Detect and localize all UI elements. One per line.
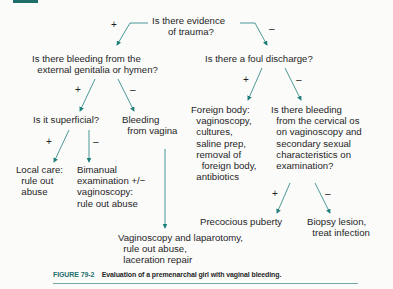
node-local-care: Local care: rule out abuse <box>16 164 63 198</box>
minus-sign: – <box>325 189 331 199</box>
node-bimanual-examination: Bimanual examination +/− vaginoscopy: ru… <box>77 164 145 209</box>
node-evidence-of-trauma: Is there evidence of trauma? <box>152 15 225 37</box>
figure-caption: FIGURE 79-2Evaluation of a premenarchal … <box>53 270 281 279</box>
node-bleeding-external-genitalia: Is there bleeding from the external geni… <box>32 53 158 75</box>
node-bleeding-from-vagina: Bleeding from vagina <box>122 114 177 136</box>
plus-sign: + <box>243 75 249 85</box>
plus-sign: + <box>272 189 278 199</box>
node-precocious-puberty: Precocious puberty <box>200 216 282 227</box>
plus-sign: + <box>46 137 52 147</box>
node-is-it-superficial: Is it superficial? <box>33 114 99 125</box>
minus-sign: – <box>296 75 302 85</box>
node-cervical-os-question: Is there bleeding from the cervical os o… <box>271 104 362 171</box>
plus-sign: + <box>75 85 81 95</box>
caption-divider <box>53 283 358 284</box>
node-vaginoscopy-laparotomy: Vaginoscopy and laparotomy, rule out abu… <box>118 232 243 266</box>
minus-sign: – <box>130 85 136 95</box>
plus-sign: + <box>111 20 117 30</box>
figure-caption-text: Evaluation of a premenarchal girl with v… <box>102 270 282 279</box>
node-biopsy-lesion: Biopsy lesion, treat infection <box>307 216 370 238</box>
node-foreign-body: Foreign body: vaginoscopy, cultures, sal… <box>191 104 256 182</box>
figure-label: FIGURE 79-2 <box>53 270 94 279</box>
minus-sign: – <box>93 137 99 147</box>
node-foul-discharge: Is there a foul discharge? <box>205 53 313 64</box>
minus-sign: – <box>269 24 275 34</box>
